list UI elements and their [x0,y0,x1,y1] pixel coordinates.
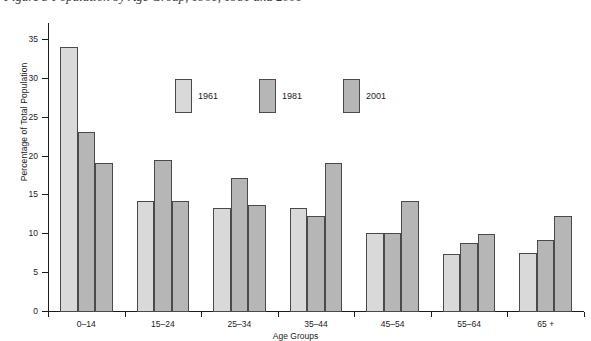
bar-1981-35–44 [307,216,325,312]
bar-2001-65 [554,216,572,312]
x-tick-label-4: 45–54 [357,319,429,329]
y-tick-mark [42,78,49,79]
x-tick-label-0: 0–14 [50,319,122,329]
bar-1961-0–14 [60,47,78,312]
bar-1961-55–64 [443,254,461,312]
x-tick-label-6: 65 + [510,319,582,329]
y-tick-label: 5 [12,267,38,277]
y-tick-label: 20 [12,151,38,161]
x-tick-mark [431,312,432,317]
bar-2001-45–54 [401,201,419,312]
y-tick-label: 25 [12,112,38,122]
bar-2001-25–34 [248,205,266,312]
legend-label-1981: 1981 [282,91,302,101]
y-tick-mark [42,233,49,234]
x-tick-mark [278,312,279,317]
x-tick-label-3: 35–44 [280,319,352,329]
y-tick-mark [42,194,49,195]
x-tick-label-2: 25–34 [203,319,275,329]
bar-1961-45–54 [366,233,384,312]
y-axis-title: Percentage of Total Population [19,42,29,202]
legend-label-1961: 1961 [198,91,218,101]
figure-caption: Figure 3 Population by Age Group, 1961, … [0,0,591,9]
y-tick-label: 35 [12,34,38,44]
y-tick-label: 0 [12,306,38,316]
bar-1961-65 [519,253,537,312]
bar-2001-35–44 [325,163,343,312]
bar-1961-25–34 [213,208,231,312]
y-tick-label: 10 [12,228,38,238]
y-axis-line [48,23,49,312]
x-axis-title: Age Groups [0,331,591,341]
bar-1981-0–14 [78,132,96,312]
y-tick-mark [42,39,49,40]
bar-1981-15–24 [154,160,172,312]
x-tick-mark [48,312,49,317]
figure-caption-text: Figure 3 Population by Age Group, 1961, … [4,0,302,5]
bar-1961-35–44 [290,208,308,312]
x-tick-mark [507,312,508,317]
legend-swatch-2001 [343,79,360,113]
bar-1981-65 [537,240,555,312]
x-tick-label-5: 55–64 [433,319,505,329]
legend-label-2001: 2001 [366,91,386,101]
y-tick-mark [42,156,49,157]
x-tick-mark [354,312,355,317]
bar-2001-15–24 [172,201,190,312]
bar-2001-55–64 [478,234,496,312]
x-tick-mark [584,312,585,317]
x-tick-mark [201,312,202,317]
y-tick-label: 30 [12,73,38,83]
legend-swatch-1981 [259,79,276,113]
x-tick-mark [125,312,126,317]
y-tick-mark [42,272,49,273]
y-tick-label: 15 [12,189,38,199]
bar-chart: Percentage of Total Population 051015202… [0,9,591,341]
bar-1981-25–34 [231,178,249,312]
x-tick-label-1: 15–24 [127,319,199,329]
bar-1981-55–64 [460,243,478,312]
bar-1981-45–54 [384,233,402,312]
bar-1961-15–24 [137,201,155,312]
y-tick-mark [42,117,49,118]
legend-swatch-1961 [175,79,192,113]
bar-2001-0–14 [95,163,113,312]
